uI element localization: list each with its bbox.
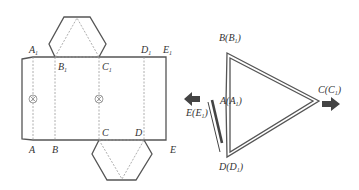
label-a-a1: A(A1) xyxy=(219,95,243,107)
overlap-strip xyxy=(212,100,222,143)
top-flap-folds xyxy=(55,18,99,57)
prism-net-diagram: A1 B1 C1 D1 E1 A B C D E B(B1) A(A1) C(C… xyxy=(0,0,359,190)
label-d: D xyxy=(134,127,143,138)
label-c1: C1 xyxy=(102,61,112,73)
label-a1: A1 xyxy=(28,44,38,56)
bottom-flap-folds xyxy=(99,140,144,179)
top-flap xyxy=(49,17,106,57)
label-b-b1: B(B1) xyxy=(219,32,242,44)
label-e1: E1 xyxy=(162,44,172,56)
triangle-inner xyxy=(230,58,313,152)
label-c-c1: C(C1) xyxy=(318,84,342,96)
label-b: B xyxy=(52,144,58,155)
arrow-right-icon xyxy=(322,97,340,111)
label-a: A xyxy=(28,144,36,155)
bottom-flap xyxy=(92,140,152,180)
label-b1: B1 xyxy=(58,61,67,73)
net: A1 B1 C1 D1 E1 A B C D E xyxy=(22,17,176,180)
label-d-d1: D(D1) xyxy=(218,161,244,173)
label-e: E xyxy=(169,144,176,155)
label-c: C xyxy=(102,127,109,138)
label-e-e1: E(E1) xyxy=(185,107,209,119)
folded-prism: B(B1) A(A1) C(C1) E(E1) D(D1) xyxy=(184,32,342,173)
label-d1: D1 xyxy=(140,44,151,56)
arrow-left-icon xyxy=(184,92,200,106)
